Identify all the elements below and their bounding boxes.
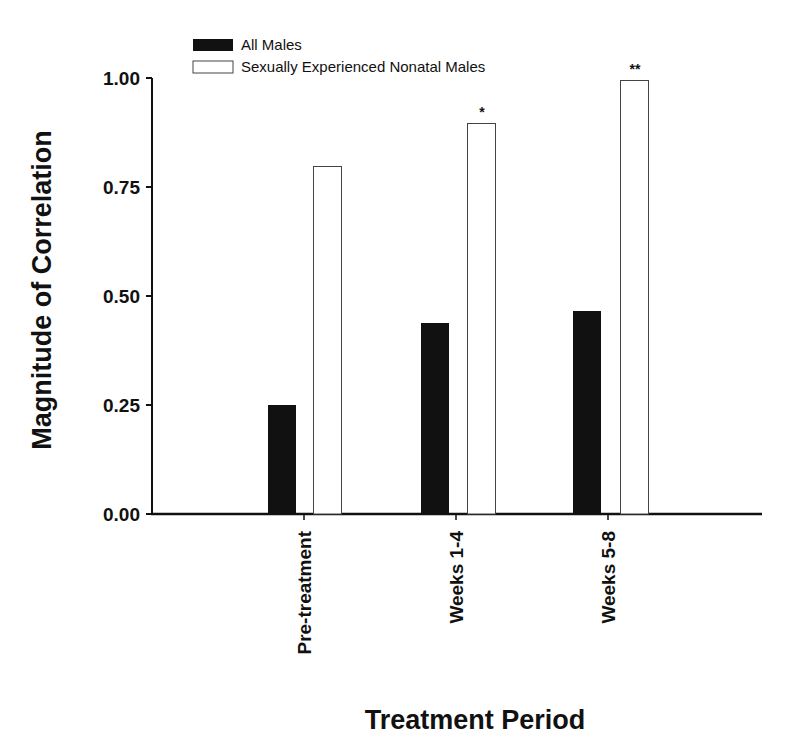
legend: All Males Sexually Experienced Nonatal M… (193, 36, 485, 75)
y-tick-label: 0.25 (103, 395, 140, 416)
x-axis-title: Treatment Period (365, 705, 586, 735)
y-tick-label: 1.00 (103, 68, 140, 89)
bar-all-males-weeks-1-4 (421, 323, 449, 514)
bar-all-males-weeks-5-8 (573, 311, 601, 514)
bars (268, 81, 649, 515)
bar-nonatal-males-weeks-5-8 (621, 81, 649, 515)
bar-nonatal-males-pre-treatment (314, 167, 342, 515)
y-tick-label: 0.00 (103, 504, 140, 525)
legend-swatch-all-males (193, 39, 233, 51)
y-tick-label: 0.50 (103, 286, 140, 307)
x-category-label: Weeks 5-8 (598, 531, 619, 624)
y-tick-label: 0.75 (103, 177, 140, 198)
chart-canvas: All Males Sexually Experienced Nonatal M… (0, 0, 785, 755)
legend-label-nonatal-males: Sexually Experienced Nonatal Males (241, 58, 485, 75)
bar-nonatal-males-weeks-1-4 (468, 124, 496, 515)
x-category-label: Weeks 1-4 (446, 531, 467, 624)
x-category-label: Pre-treatment (294, 530, 315, 654)
significance-marker: * (479, 104, 485, 120)
x-axis: Pre-treatment Weeks 1-4 Weeks 5-8 (151, 514, 762, 655)
legend-swatch-nonatal-males (193, 61, 233, 73)
y-axis-title: Magnitude of Correlation (27, 130, 57, 450)
legend-label-all-males: All Males (241, 36, 302, 53)
y-axis: 1.00 0.75 0.50 0.25 0.00 (103, 68, 152, 525)
significance-marker: ** (630, 61, 641, 77)
bar-all-males-pre-treatment (268, 405, 296, 514)
